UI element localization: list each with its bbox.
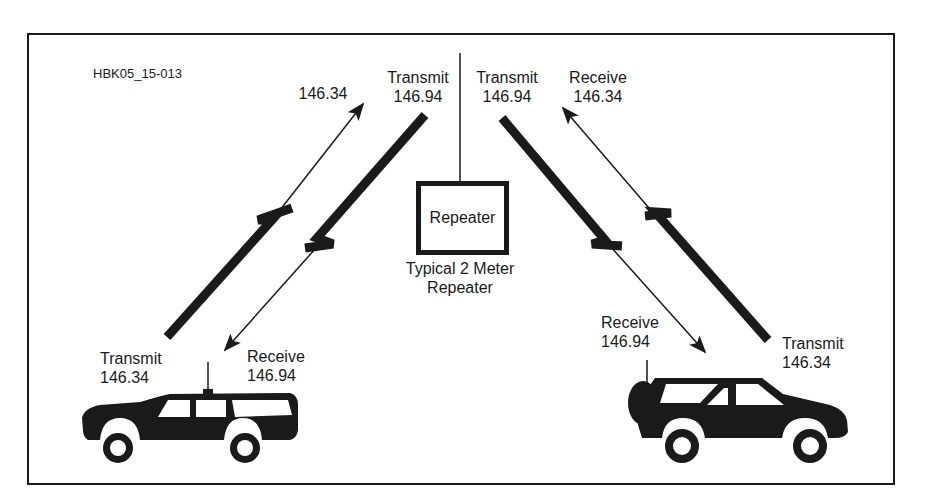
repeater-caption-line1: Typical 2 Meter: [392, 259, 528, 278]
right-car-icon: [628, 360, 848, 464]
repeater-tx-right-mode: Transmit: [469, 68, 545, 87]
repeater-tx-left-freq: 146.94: [380, 87, 456, 106]
repeater-rx-right-mode: Receive: [560, 68, 636, 87]
repeater-tx-right-label: Transmit 146.94: [469, 68, 545, 106]
repeater-rx-left-freq: 146.34: [288, 84, 358, 103]
left-car-receive-label: Receive 146.94: [247, 347, 305, 385]
left-car-receive-freq: 146.94: [247, 366, 305, 385]
right-car-transmit-label: Transmit 146.34: [782, 334, 844, 372]
left-car-transmit-freq: 146.34: [100, 368, 162, 387]
right-car-receive-label: Receive 146.94: [601, 313, 659, 351]
repeater-box: Repeater: [416, 181, 509, 255]
left-car-transmit-mode: Transmit: [100, 349, 162, 368]
repeater-box-label: Repeater: [430, 209, 496, 227]
right-car-receive-freq: 146.94: [601, 332, 659, 351]
repeater-tx-right-freq: 146.94: [469, 87, 545, 106]
repeater-tx-left-mode: Transmit: [380, 68, 456, 87]
repeater-tx-left-label: Transmit 146.94: [380, 68, 456, 106]
right-car-transmit-mode: Transmit: [782, 334, 844, 353]
left-car-transmit-label: Transmit 146.34: [100, 349, 162, 387]
right-car-receive-mode: Receive: [601, 313, 659, 332]
repeater-caption-line2: Repeater: [392, 278, 528, 297]
figure-id: HBK05_15-013: [93, 66, 182, 81]
repeater-rx-left-label: 146.34: [288, 84, 358, 103]
repeater-rx-right-label: Receive 146.34: [560, 68, 636, 106]
right-car-transmit-freq: 146.34: [782, 353, 844, 372]
repeater-rx-right-freq: 146.34: [560, 87, 636, 106]
left-car-receive-mode: Receive: [247, 347, 305, 366]
repeater-caption: Typical 2 Meter Repeater: [392, 259, 528, 297]
